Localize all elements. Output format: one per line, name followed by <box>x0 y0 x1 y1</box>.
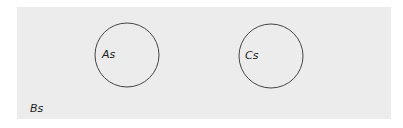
universe-label-bs: Bs <box>30 102 44 115</box>
set-label-as: As <box>101 48 116 61</box>
diagram-canvas: As Cs Bs <box>0 0 403 128</box>
set-label-cs: Cs <box>245 49 259 62</box>
